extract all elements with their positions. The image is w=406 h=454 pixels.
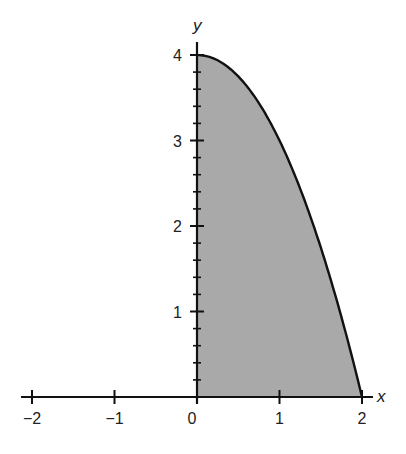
x-tick-label: 0 [188,410,197,427]
y-tick-label: 3 [173,133,182,150]
y-tick-label: 4 [173,47,182,64]
x-axis-label: x [376,387,386,406]
shaded-region [197,55,362,397]
x-tick-label: −2 [23,410,41,427]
y-axis-label: y [192,16,203,35]
y-tick-label: 1 [173,304,182,321]
chart: −2−1012 1234 x y [0,0,406,454]
x-tick-label: 2 [358,410,367,427]
x-tick-label: 1 [275,410,284,427]
y-tick-label: 2 [173,218,182,235]
x-tick-label: −1 [105,410,123,427]
